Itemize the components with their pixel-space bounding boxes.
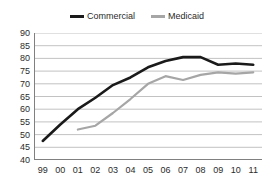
x-tick-label: 03 [108, 166, 118, 175]
y-tick-label: 90 [20, 29, 30, 38]
x-tick-label: 10 [231, 166, 241, 175]
series-line-commercial [43, 57, 253, 141]
y-tick-label: 80 [20, 54, 30, 63]
series-lines [43, 57, 253, 141]
x-tick-label: 11 [249, 166, 258, 175]
medicaid-line-swatch-icon [151, 15, 165, 18]
x-tick-label: 04 [125, 166, 135, 175]
legend-item-commercial: Commercial [70, 12, 135, 21]
y-tick-label: 40 [20, 156, 30, 165]
y-tick-label: 65 [20, 92, 30, 101]
y-tick-label: 45 [20, 143, 30, 152]
plot-area [34, 33, 262, 160]
legend-label-medicaid: Medicaid [168, 12, 204, 21]
x-axis: 99000102030405060708091011 [34, 166, 262, 180]
x-tick-label: 02 [90, 166, 100, 175]
gridlines [34, 33, 262, 160]
legend-label-commercial: Commercial [87, 12, 135, 21]
y-tick-label: 75 [20, 67, 30, 76]
y-tick-label: 55 [20, 117, 30, 126]
y-axis: 4045505560657075808590 [0, 33, 30, 160]
y-tick-label: 70 [20, 79, 30, 88]
legend-item-medicaid: Medicaid [151, 12, 204, 21]
x-tick-label: 01 [73, 166, 83, 175]
y-tick-label: 50 [20, 130, 30, 139]
x-tick-label: 07 [178, 166, 188, 175]
x-tick-label: 08 [196, 166, 206, 175]
line-chart: Commercial Medicaid 40455055606570758085… [0, 0, 274, 194]
y-tick-label: 60 [20, 105, 30, 114]
series-line-medicaid [78, 72, 253, 129]
y-tick-label: 85 [20, 41, 30, 50]
x-tick-label: 00 [55, 166, 65, 175]
chart-legend: Commercial Medicaid [0, 8, 274, 24]
commercial-line-swatch-icon [70, 15, 84, 18]
plot-svg [34, 33, 262, 160]
x-tick-label: 99 [38, 166, 48, 175]
x-tick-label: 06 [161, 166, 171, 175]
x-tick-label: 09 [213, 166, 223, 175]
x-tick-label: 05 [143, 166, 153, 175]
